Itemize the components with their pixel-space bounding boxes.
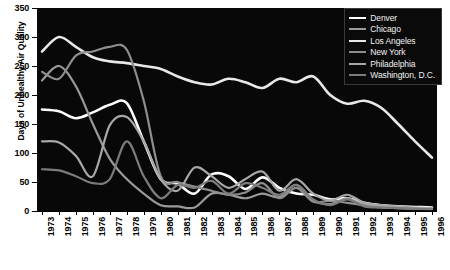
x-tick-label: 1976	[97, 217, 107, 236]
legend-color-swatch	[349, 51, 366, 53]
chart-legend: DenverChicagoLos AngelesNew YorkPhiladel…	[344, 8, 442, 85]
x-tick-label: 1996	[436, 217, 446, 236]
legend-item-label: Philadelphia	[370, 59, 415, 69]
chart-root: 050100150200250300350 Days of Unhealthy …	[0, 0, 450, 270]
legend-item[interactable]: Chicago	[349, 24, 435, 36]
x-axis: 1973197419751976197719781979198019811982…	[37, 211, 437, 270]
x-tick-label: 1979	[148, 217, 158, 236]
x-tick-mark	[279, 211, 280, 215]
x-tick-label: 1974	[63, 217, 73, 236]
x-tick-label: 1983	[216, 217, 226, 236]
x-tick-mark	[364, 211, 365, 215]
x-tick-label: 1993	[385, 217, 395, 236]
x-tick-mark	[212, 211, 213, 215]
legend-item[interactable]: Denver	[349, 12, 435, 24]
x-tick-label: 1992	[368, 217, 378, 236]
legend-item[interactable]: New York	[349, 47, 435, 59]
y-tick-label: 0	[24, 206, 29, 216]
x-tick-mark	[381, 211, 382, 215]
x-tick-mark	[398, 211, 399, 215]
x-tick-mark	[262, 211, 263, 215]
x-tick-mark	[76, 211, 77, 215]
x-tick-label: 1985	[249, 217, 259, 236]
legend-color-swatch	[349, 74, 366, 76]
x-tick-label: 1981	[182, 217, 192, 236]
x-tick-mark	[330, 211, 331, 215]
x-tick-label: 1991	[351, 217, 361, 236]
legend-item-label: New York	[370, 47, 405, 57]
legend-color-swatch	[349, 28, 366, 30]
x-tick-mark	[110, 211, 111, 215]
x-tick-label: 1987	[283, 217, 293, 236]
x-tick-label: 1980	[165, 217, 175, 236]
x-tick-label: 1977	[114, 217, 124, 236]
x-tick-mark	[195, 211, 196, 215]
x-tick-mark	[161, 211, 162, 215]
x-tick-mark	[296, 211, 297, 215]
x-tick-mark	[313, 211, 314, 215]
x-tick-label: 1982	[199, 217, 209, 236]
x-tick-label: 1973	[46, 217, 56, 236]
y-axis-title: Days of Unhealthy Air Quality	[16, 11, 26, 151]
legend-item-label: Denver	[370, 13, 397, 23]
x-tick-mark	[178, 211, 179, 215]
x-tick-mark	[347, 211, 348, 215]
x-tick-label: 1975	[80, 217, 90, 236]
legend-color-swatch	[349, 40, 366, 42]
legend-color-swatch	[349, 17, 366, 19]
x-tick-mark	[245, 211, 246, 215]
legend-item[interactable]: Los Angeles	[349, 35, 435, 47]
x-tick-mark	[415, 211, 416, 215]
x-tick-mark	[42, 211, 43, 215]
legend-item[interactable]: Philadelphia	[349, 58, 435, 70]
x-tick-label: 1988	[300, 217, 310, 236]
x-axis-line	[37, 211, 437, 212]
legend-item-label: Los Angeles	[370, 36, 415, 46]
x-tick-mark	[127, 211, 128, 215]
x-tick-mark	[229, 211, 230, 215]
x-tick-label: 1995	[419, 217, 429, 236]
x-tick-label: 1984	[233, 217, 243, 236]
series-line	[42, 66, 432, 209]
legend-item-label: Chicago	[370, 24, 401, 34]
legend-item[interactable]: Washington, D.C.	[349, 70, 435, 82]
x-tick-mark	[59, 211, 60, 215]
legend-item-label: Washington, D.C.	[370, 70, 435, 80]
x-tick-label: 1990	[334, 217, 344, 236]
x-tick-label: 1994	[402, 217, 412, 236]
x-tick-mark	[93, 211, 94, 215]
x-tick-label: 1989	[317, 217, 327, 236]
legend-color-swatch	[349, 63, 366, 65]
x-tick-label: 1986	[266, 217, 276, 236]
x-tick-mark	[144, 211, 145, 215]
x-tick-mark	[432, 211, 433, 215]
y-tick-label: 50	[19, 177, 29, 187]
x-tick-label: 1978	[131, 217, 141, 236]
